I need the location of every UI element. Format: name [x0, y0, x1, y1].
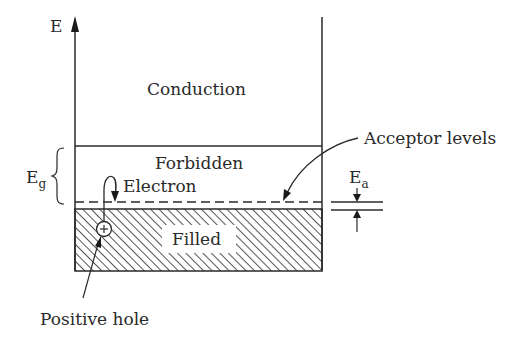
- filled-label: Filled: [172, 231, 221, 248]
- forbidden-label: Forbidden: [155, 155, 243, 172]
- ea-marker: [331, 188, 383, 232]
- electron-label: Electron: [123, 178, 197, 195]
- energy-axis-label: E: [50, 18, 62, 35]
- ea-up-arrow-icon: [353, 210, 361, 218]
- electron-arrow-icon: [111, 191, 119, 202]
- axis-arrow-icon: [71, 16, 79, 32]
- eg-brace-icon: [52, 148, 64, 204]
- acceptor-arrow-icon: [283, 189, 291, 201]
- eg-main: E: [26, 167, 38, 187]
- eg-subscript: g: [38, 177, 46, 191]
- ea-main: E: [349, 167, 361, 187]
- ea-label: Ea: [349, 169, 369, 186]
- ea-down-arrow-icon: [353, 194, 361, 202]
- acceptor-levels-label: Acceptor levels: [364, 130, 496, 147]
- ea-subscript: a: [361, 177, 368, 191]
- positive-hole-label: Positive hole: [40, 311, 149, 328]
- eg-label: Eg: [26, 169, 46, 186]
- band-diagram-canvas: [0, 0, 519, 344]
- conduction-label: Conduction: [147, 81, 246, 98]
